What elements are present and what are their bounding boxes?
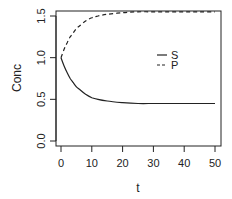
y-axis: 0.00.51.01.5 <box>35 8 56 148</box>
series-p-line <box>61 12 215 58</box>
x-tick-label: 50 <box>209 157 221 169</box>
plot-box <box>56 11 221 146</box>
y-axis-title: Conc <box>10 64 24 92</box>
line-chart: 0.00.51.01.5 01020304050 SP Conc t <box>0 0 232 199</box>
y-tick-label: 1.5 <box>35 8 47 23</box>
x-tick-label: 30 <box>147 157 159 169</box>
x-axis-title: t <box>136 181 140 195</box>
x-tick-label: 10 <box>86 157 98 169</box>
x-axis: 01020304050 <box>58 146 221 169</box>
y-tick-label: 0.5 <box>35 92 47 107</box>
y-tick-label: 1.0 <box>35 50 47 65</box>
series-group <box>61 12 215 104</box>
y-tick-label: 0.0 <box>35 133 47 148</box>
x-tick-label: 0 <box>58 157 64 169</box>
series-s-line <box>61 58 215 104</box>
legend: SP <box>157 49 178 71</box>
x-tick-label: 20 <box>116 157 128 169</box>
legend-p-label: P <box>171 59 178 71</box>
x-tick-label: 40 <box>178 157 190 169</box>
